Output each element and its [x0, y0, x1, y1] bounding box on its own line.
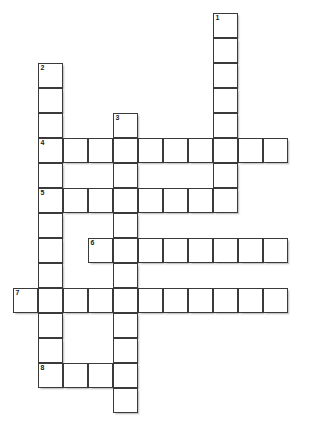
crossword-cell[interactable]	[38, 88, 63, 113]
crossword-cell[interactable]	[263, 238, 288, 263]
crossword-cell[interactable]	[38, 313, 63, 338]
cell-number-5: 5	[41, 189, 45, 197]
crossword-cell[interactable]	[213, 138, 238, 163]
crossword-cell[interactable]	[138, 238, 163, 263]
crossword-cell[interactable]	[63, 188, 88, 213]
crossword-cell[interactable]	[113, 263, 138, 288]
crossword-cell[interactable]	[213, 238, 238, 263]
crossword-cell[interactable]	[188, 138, 213, 163]
crossword-cell[interactable]	[38, 213, 63, 238]
crossword-cell[interactable]	[88, 188, 113, 213]
cell-number-6: 6	[91, 239, 95, 247]
crossword-cell[interactable]	[263, 138, 288, 163]
crossword-cell[interactable]	[88, 363, 113, 388]
crossword-cell[interactable]	[38, 163, 63, 188]
crossword-cell[interactable]: 5	[38, 188, 63, 213]
crossword-cell[interactable]	[163, 138, 188, 163]
crossword-cell[interactable]	[113, 363, 138, 388]
crossword-cell[interactable]	[213, 288, 238, 313]
crossword-cell[interactable]	[38, 263, 63, 288]
crossword-cell[interactable]	[38, 338, 63, 363]
crossword-cell[interactable]	[163, 288, 188, 313]
crossword-cell[interactable]	[38, 288, 63, 313]
crossword-cell[interactable]	[188, 238, 213, 263]
crossword-cell[interactable]	[213, 163, 238, 188]
crossword-cell[interactable]	[263, 288, 288, 313]
crossword-grid[interactable]: 12345678	[0, 0, 311, 423]
cell-number-4: 4	[41, 139, 45, 147]
crossword-cell[interactable]	[113, 213, 138, 238]
crossword-cell[interactable]	[113, 288, 138, 313]
crossword-cell[interactable]: 4	[38, 138, 63, 163]
crossword-cell[interactable]	[213, 38, 238, 63]
crossword-cell[interactable]: 1	[213, 13, 238, 38]
crossword-cell[interactable]	[163, 188, 188, 213]
crossword-cell[interactable]	[63, 363, 88, 388]
crossword-cell[interactable]	[138, 138, 163, 163]
crossword-cell[interactable]	[88, 138, 113, 163]
crossword-cell[interactable]	[38, 113, 63, 138]
crossword-cell[interactable]	[138, 288, 163, 313]
crossword-cell[interactable]	[138, 188, 163, 213]
crossword-cell[interactable]	[38, 238, 63, 263]
crossword-cell[interactable]	[63, 288, 88, 313]
crossword-cell[interactable]	[238, 138, 263, 163]
crossword-cell[interactable]	[113, 388, 138, 413]
cell-number-7: 7	[16, 289, 20, 297]
crossword-cell[interactable]	[238, 238, 263, 263]
cell-number-8: 8	[41, 364, 45, 372]
cell-number-1: 1	[216, 14, 220, 22]
crossword-cell[interactable]	[213, 113, 238, 138]
crossword-cell[interactable]: 2	[38, 63, 63, 88]
crossword-cell[interactable]: 3	[113, 113, 138, 138]
crossword-cell[interactable]: 8	[38, 363, 63, 388]
crossword-cell[interactable]	[213, 88, 238, 113]
crossword-cell[interactable]	[213, 188, 238, 213]
crossword-cell[interactable]	[238, 288, 263, 313]
crossword-cell[interactable]	[113, 238, 138, 263]
crossword-cell[interactable]: 7	[13, 288, 38, 313]
crossword-cell[interactable]	[113, 138, 138, 163]
crossword-cell[interactable]	[188, 188, 213, 213]
crossword-cell[interactable]	[113, 163, 138, 188]
crossword-cell[interactable]	[113, 188, 138, 213]
crossword-cell[interactable]	[188, 288, 213, 313]
crossword-cell[interactable]	[213, 63, 238, 88]
cell-number-3: 3	[116, 114, 120, 122]
crossword-cell[interactable]	[113, 338, 138, 363]
crossword-cell[interactable]	[113, 313, 138, 338]
crossword-cell[interactable]	[88, 288, 113, 313]
crossword-cell[interactable]	[63, 138, 88, 163]
crossword-cell[interactable]: 6	[88, 238, 113, 263]
cell-number-2: 2	[41, 64, 45, 72]
crossword-cell[interactable]	[163, 238, 188, 263]
